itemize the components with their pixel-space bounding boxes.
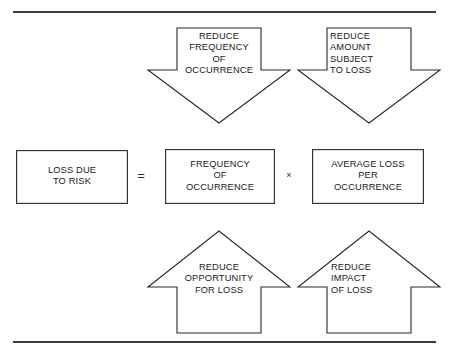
diagram-canvas: REDUCE FREQUENCY OF OCCURRENCE REDUCE AM…	[0, 0, 449, 353]
horizontal-rule-top	[13, 11, 436, 13]
up-arrow-reduce-impact	[298, 231, 440, 333]
down-arrow-reduce-amount	[298, 28, 440, 123]
horizontal-rule-bottom	[13, 341, 436, 343]
operator-times: ×	[282, 171, 296, 180]
box-loss-due-to-risk	[16, 150, 128, 204]
up-arrow-reduce-opportunity	[148, 231, 290, 333]
box-average-loss-per-occurrence	[312, 149, 424, 204]
operator-equals: =	[134, 169, 148, 182]
box-frequency-of-occurrence	[165, 149, 275, 204]
down-arrow-reduce-frequency	[148, 28, 290, 123]
